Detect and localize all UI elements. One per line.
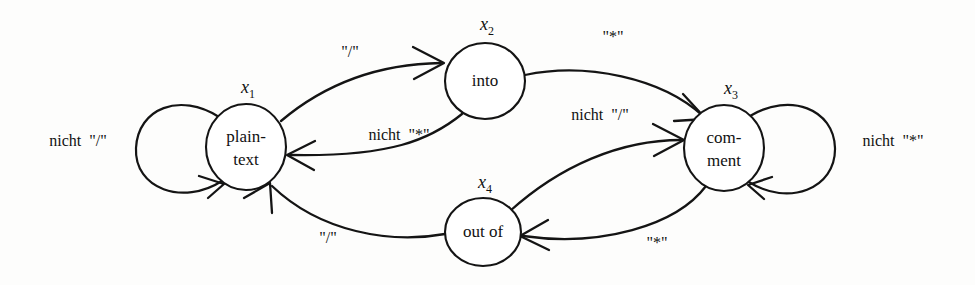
self-loop-label-comment: nicht "*" [862,132,923,149]
state-id-x4: x4 [477,172,492,196]
edge-out-of-to-comment [510,124,684,211]
state-label-plain-text-line1: plain- [226,127,266,146]
state-id-x1: x1 [240,77,255,101]
state-node-plain-text[interactable]: plain- text x1 [206,77,286,190]
state-label-out-of-line1: out of [463,222,503,241]
edge-plain-text-to-into [281,47,444,121]
edge-out-of-to-comment-path [510,140,681,211]
state-circle-comment[interactable] [684,105,764,191]
edge-out-of-to-plain-text [244,183,445,237]
state-machine-diagram: plain- text x1 into x2 com- ment x3 out … [0,0,975,285]
state-label-into-line1: into [472,71,498,90]
state-node-out-of[interactable]: out of x4 [445,172,521,266]
edge-plain-text-to-into-path [281,63,441,121]
state-id-x3: x3 [723,78,738,102]
edge-out-of-to-plain-text-path [272,186,445,237]
edge-label-into-to-comment: "*" [602,28,623,45]
edge-label-out-of-to-comment: nicht "/" [571,106,629,123]
edge-label-into-to-plain-text: nicht "*" [368,126,429,143]
edge-comment-to-out-of [520,186,706,250]
fsm-canvas: plain- text x1 into x2 com- ment x3 out … [0,0,975,285]
state-id-x2: x2 [479,14,494,38]
edge-label-plain-text-to-into: "/" [341,43,359,60]
edge-comment-to-out-of-arrowhead [520,220,549,250]
state-circle-plain-text[interactable] [206,104,286,190]
edge-comment-to-out-of-path [523,186,706,239]
state-label-comment-line2: ment [707,151,741,170]
edge-label-comment-to-out-of: "*" [646,234,667,251]
edge-label-out-of-to-plain-text: "/" [319,229,337,246]
state-node-comment[interactable]: com- ment x3 [684,78,764,191]
state-label-comment-line1: com- [707,128,742,147]
state-label-plain-text-line2: text [233,150,259,169]
state-node-into[interactable]: into x2 [445,14,525,119]
self-loop-label-plain-text: nicht "/" [49,132,107,149]
